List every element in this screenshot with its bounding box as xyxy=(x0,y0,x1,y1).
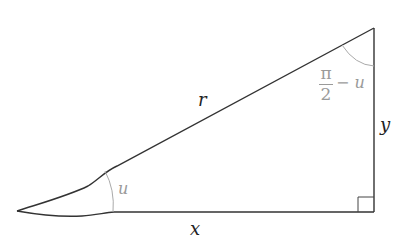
label-r: r xyxy=(198,91,207,109)
right-angle-marker xyxy=(358,197,374,212)
horizontal-leg-line xyxy=(17,211,374,216)
label-y: y xyxy=(380,116,390,134)
angle-top-numerator: π xyxy=(319,65,333,82)
hypotenuse-line xyxy=(17,28,374,211)
label-angle-u: u xyxy=(118,181,128,197)
angle-arc-top xyxy=(342,45,374,66)
angle-top-suffix: − u xyxy=(336,75,365,91)
label-x: x xyxy=(190,220,200,238)
triangle-figure xyxy=(0,0,404,251)
angle-top-denominator: 2 xyxy=(319,86,333,103)
triangle-diagram: r x y u π 2 − u xyxy=(0,0,404,251)
angle-arc-u xyxy=(105,171,113,212)
